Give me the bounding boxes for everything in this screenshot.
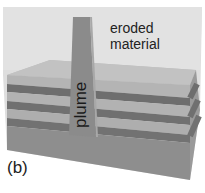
- plume-label: plume: [71, 68, 91, 128]
- material-text: material: [110, 36, 170, 52]
- panel-label: (b): [7, 158, 28, 178]
- block-illustration: [0, 0, 205, 193]
- eroded-material-label: eroded material: [110, 20, 170, 52]
- enclosure-back: [3, 7, 202, 70]
- eroded-text: eroded: [110, 20, 170, 36]
- layered-erosion-diagram: eroded material plume (b): [0, 0, 205, 193]
